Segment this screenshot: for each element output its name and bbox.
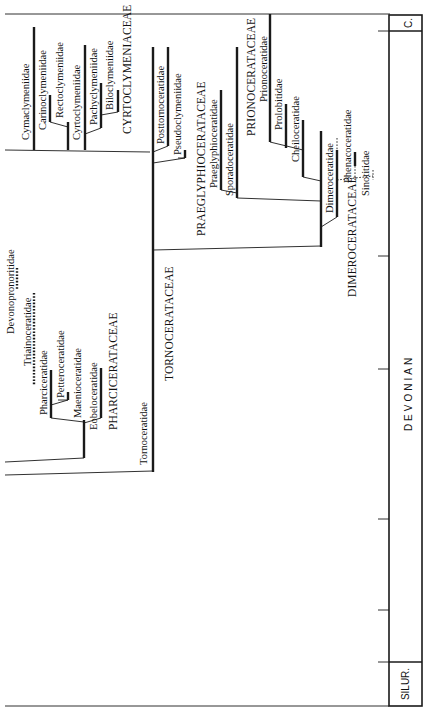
unit-carboniferous-label: C.: [403, 18, 414, 28]
clymeniid-clade: Cymaclymeniidae Carinoclymeniidae Rectoc…: [5, 5, 150, 152]
unit-devonian-label: DEVONIAN: [403, 355, 414, 431]
family-devonopronoritidae: Devonopronoritidae: [5, 249, 16, 334]
family-dimeroceratidae: Dimeroceratidae: [324, 143, 335, 213]
family-pseudoclymeniidae: Pseudoclymeniidae: [172, 73, 183, 155]
superfamily-praeglyphioceratacaeae: PRAEGLYPHIOCERATACEAE: [195, 81, 207, 236]
family-rectoclymeniidae: Rectoclymeniidae: [54, 42, 65, 118]
family-prolobitidae: Prolobitidae: [273, 78, 284, 130]
family-petteroceratidae: Petteroceratidae: [55, 330, 66, 398]
phylogeny-diagram: C. DEVONIAN SILUR. Cymaclymeniidae Carin…: [0, 0, 435, 722]
family-biloclymeniidae: Biloclymeniidae: [104, 40, 115, 110]
superfamily-cyrtoclymeniaceae: CYRTOCLYMENIACEAE: [121, 5, 133, 134]
family-eobeloceratidae: Eobeloceratidae: [88, 362, 99, 430]
family-pachyclymeniidae: Pachyclymeniidae: [88, 48, 99, 125]
family-triainoceratidae: Triainoceratidae: [22, 297, 33, 366]
family-sinotitidae: Sinotitidae: [360, 150, 371, 196]
superfamily-pharciceratacaeae: PHARCICERATACEAE: [107, 312, 119, 430]
superfamily-dimeroceratacaeae: DIMEROCERATACEAE: [346, 176, 358, 297]
family-maenioceratidae: Maenioceratidae: [72, 348, 83, 418]
family-prionoceratidae: Prionoceratidae: [258, 36, 269, 102]
family-tornoceratidae: Tornoceratidae: [138, 402, 149, 465]
family-posttornoceratidae: Posttornoceratidae: [155, 66, 166, 144]
family-carinoclymeniidae: Carinoclymeniidae: [37, 50, 48, 130]
family-phenacoceratidae: Phenacoceratidae: [342, 109, 353, 183]
superfamily-prionoceratacaeae: PRIONOCERATACEAE: [245, 18, 257, 136]
family-pharciceratidae: Pharciceratidae: [38, 350, 49, 415]
family-sporadoceratidae: Sporadoceratidae: [224, 123, 235, 196]
superfamily-tornoceratacaeae: TORNOCERATACEAE: [163, 266, 175, 381]
prionoceratid-dimeroceratid-clade: PRIONOCERATACEAE Prionoceratidae Prolobi…: [245, 14, 373, 297]
pharciceratid-clade: Devonopronoritidae Triainoceratidae Phar…: [5, 249, 119, 462]
family-cymaclymeniidae: Cymaclymeniidae: [20, 63, 31, 140]
stratigraphic-column: C. DEVONIAN SILUR.: [378, 15, 422, 706]
family-praeglyphioceratidae: Praeglyphioceratidae: [208, 99, 219, 188]
family-cheiloceratidae: Cheiloceratidae: [290, 96, 301, 162]
family-cyrtoclymeniidae: Cyrtoclymeniidae: [71, 64, 82, 140]
unit-silurian-label: SILUR.: [400, 668, 411, 700]
